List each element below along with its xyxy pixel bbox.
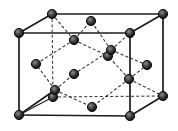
atom-T-D <box>124 74 133 83</box>
atom-FTL <box>14 28 23 37</box>
atom-T-B <box>69 35 78 44</box>
atom-FTR <box>125 28 134 37</box>
edge-BBR-FBR <box>130 96 163 116</box>
atom-BBR <box>158 91 167 100</box>
edge-FTL-BTL <box>19 14 52 33</box>
bond-T-B-FC-back <box>74 40 108 56</box>
atom-FC-left <box>31 59 40 68</box>
crystal-structure-svg <box>0 0 178 131</box>
atom-FC-bottom <box>87 102 96 111</box>
atom-FBR <box>125 111 134 120</box>
atom-BTR <box>158 9 167 18</box>
crystal-structure-figure <box>0 0 178 131</box>
bond-T-C-FC-top <box>91 21 111 50</box>
atom-BTL <box>47 9 56 18</box>
atom-FC-right <box>142 60 151 69</box>
edge-FBR-FBL <box>19 115 130 116</box>
atom-FBL <box>14 110 23 119</box>
edge-FTR-BTR <box>130 14 163 33</box>
bond-T-A-FC-bottom <box>55 90 92 107</box>
bond-T-D-BBR <box>129 79 163 96</box>
atom-T-C <box>106 45 115 54</box>
bond-T-D-FC-bottom <box>92 79 129 107</box>
atom-FC-top <box>86 16 95 25</box>
atoms-layer <box>14 9 167 120</box>
atom-T-A <box>50 85 59 94</box>
hidden-edge-BTL-BBL <box>52 14 53 97</box>
bond-T-B-BTL <box>52 14 74 40</box>
atom-FC-front <box>69 69 78 78</box>
bond-T-B-FC-left <box>36 40 74 64</box>
bond-T-C-FC-right <box>111 50 147 65</box>
